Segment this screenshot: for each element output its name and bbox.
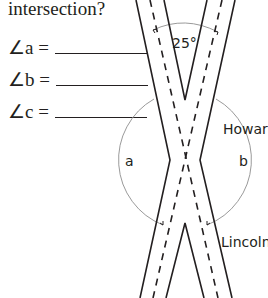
angle-arc [119,99,252,225]
angle-25-arc [153,23,218,32]
angle-25-label: 25° [172,35,197,51]
angle-a-marker: a [125,153,134,169]
road-label-howard: Howard [223,121,268,137]
intersection-diagram: 25° Howard Lincoln a b [0,0,268,298]
angle-b-marker: b [239,153,248,169]
road-label-lincoln: Lincoln [221,234,268,250]
